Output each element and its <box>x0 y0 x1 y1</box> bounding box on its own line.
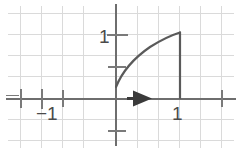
math-figure: 1 −1 1 <box>0 0 238 148</box>
plot-canvas <box>0 0 238 148</box>
x-axis-label-one: 1 <box>172 104 183 123</box>
y-axis-label-one: 1 <box>99 27 110 46</box>
function-curve <box>116 33 180 88</box>
x-axis-label-negative-one: −1 <box>36 104 58 123</box>
curve-group <box>116 33 180 99</box>
x-axis-direction-arrow <box>127 91 152 107</box>
